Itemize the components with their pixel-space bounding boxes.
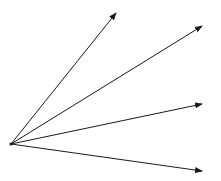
vector-fan-diagram [0, 0, 221, 181]
vector-diagram [0, 0, 221, 181]
vector-2-arrow [11, 26, 202, 144]
vector-3-arrow [11, 104, 202, 144]
vectors-group [11, 13, 202, 171]
origin-point [9, 142, 12, 145]
vector-1-arrow [11, 13, 116, 144]
vector-4-arrow [11, 144, 202, 171]
